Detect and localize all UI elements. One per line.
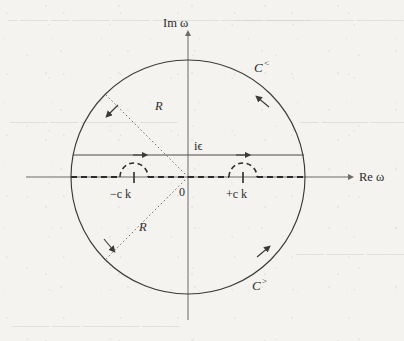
arrowhead-lower-right-arc [257, 247, 269, 257]
origin-label: 0 [179, 185, 185, 199]
contour-label-lower: C > [252, 276, 267, 293]
contour-diagram-svg: Im ω Re ω 0 −c k +c k iϵ R R C < C > [0, 0, 404, 341]
radius-line-upper [105, 94, 188, 177]
axis-group [26, 32, 352, 320]
arrowhead-upper-left-arc [107, 105, 118, 116]
radius-label-lower: R [138, 220, 147, 234]
arrowhead-upper-right-arc [257, 97, 269, 107]
arrowhead-lower-left-arc [104, 239, 114, 251]
pole-label-negative: −c k [110, 187, 131, 201]
real-axis-label: Re ω [359, 170, 384, 184]
contour-label-lower-superscript: > [262, 276, 267, 286]
contour-label-upper-text: C [254, 60, 263, 75]
contour-label-lower-text: C [252, 278, 261, 293]
pole-label-positive: +c k [226, 187, 247, 201]
contour-diagram-figure: — ——— —— ———— ———— ——————— —— —— ————— —… [0, 0, 404, 341]
epsilon-offset-label: iϵ [194, 139, 203, 153]
radius-label-upper: R [154, 99, 163, 113]
contour-label-upper-superscript: < [264, 58, 269, 68]
imaginary-axis-label: Im ω [163, 16, 188, 30]
contour-label-upper: C < [254, 58, 269, 75]
